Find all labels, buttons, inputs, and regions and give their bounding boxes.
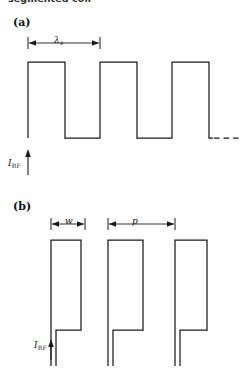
- arrowhead-up-b: [48, 339, 54, 347]
- arrow-right-lambda: [92, 40, 99, 46]
- arrow-left-lambda: [29, 40, 36, 46]
- panel-b-p-dimension-line: [108, 218, 175, 230]
- panel-a-dimension-line: [28, 37, 100, 49]
- panel-a-current-axis-arrow: [25, 149, 31, 175]
- arrow-right-p: [167, 221, 174, 227]
- panel-b-w-dimension-line: [51, 218, 85, 230]
- figure-canvas: [0, 0, 244, 384]
- arrow-right-w: [77, 221, 84, 227]
- figure-root: segmented coil (a) (b) λs w p IRF IRF: [0, 0, 244, 384]
- panel-b-current-axis-arrow: [48, 339, 54, 360]
- arrow-left-w: [52, 221, 59, 227]
- panel-b-waveform: [51, 240, 207, 366]
- arrow-left-p: [109, 221, 116, 227]
- arrowhead-up-a: [25, 149, 31, 157]
- panel-a-waveform: [28, 62, 213, 138]
